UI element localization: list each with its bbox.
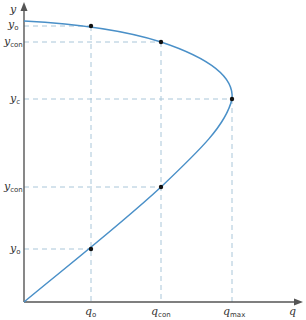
x-axis-label: q [289, 305, 296, 318]
y-tick-y-o-upper: yo [7, 18, 19, 32]
diagram-canvas: y q yo ycon yc ycon yo qo qcon qmax [0, 0, 306, 320]
y-tick-y-o-lower: yo [9, 242, 21, 256]
point-upper-q-con [159, 40, 163, 44]
y-tick-labels: yo ycon yc ycon yo [3, 18, 23, 256]
point-q-max [230, 97, 234, 101]
guide-lines [24, 26, 232, 302]
y-tick-y-con-lower: ycon [3, 180, 23, 194]
y-tick-y-c: yc [9, 92, 20, 106]
point-lower-q-con [159, 185, 163, 189]
point-lower-q-o [89, 247, 93, 251]
x-tick-q-con: qcon [151, 305, 171, 319]
y-axis-label: y [9, 3, 17, 16]
speed-flow-curve [24, 21, 232, 302]
x-tick-q-max: qmax [223, 305, 245, 319]
y-tick-y-con-upper: ycon [3, 35, 23, 49]
x-tick-labels: qo qcon qmax [85, 305, 245, 319]
x-tick-q-o: qo [85, 305, 96, 319]
point-upper-q-o [89, 24, 93, 28]
y-axis-arrow-icon [21, 2, 28, 11]
